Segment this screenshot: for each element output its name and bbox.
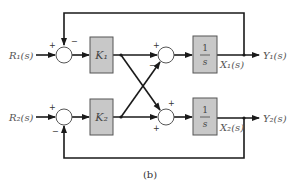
summing-junction-cross-1: [158, 47, 174, 63]
gain-label-k1: K₁: [94, 49, 108, 62]
sign-sum4-left: +: [153, 124, 160, 133]
input-label-r1: R₁(s): [8, 50, 34, 61]
cross-wire-k2-to-sum3: [121, 62, 160, 117]
output-label-y1: Y₁(s): [263, 50, 287, 61]
sign-sum3-left: +: [153, 41, 160, 50]
block-diagram: + − + − + − + + K₁ K₂ 1 s 1 s R₁(s) R₂(s…: [0, 0, 295, 186]
state-label-x2: X₂(s): [219, 122, 244, 133]
gain-label-k2: K₂: [94, 111, 108, 124]
sign-sum1-left: +: [49, 41, 56, 50]
integrator-2-numerator: 1: [202, 105, 208, 115]
summing-junction-input-1: [56, 47, 72, 63]
figure-caption: (b): [143, 169, 157, 180]
summing-junction-cross-2: [158, 109, 174, 125]
sign-sum3-bottom: −: [149, 61, 156, 70]
sign-sum1-top: −: [71, 37, 78, 46]
sign-sum2-bottom: −: [52, 127, 59, 136]
integrator-2-denominator: s: [203, 119, 208, 129]
pickoff-dot-y2: [242, 116, 245, 119]
output-label-y2: Y₂(s): [263, 113, 287, 124]
state-label-x1: X₁(s): [219, 59, 244, 70]
integrator-1-denominator: s: [203, 57, 208, 67]
integrator-block-2: [193, 98, 217, 135]
summing-junction-input-2: [56, 109, 72, 125]
integrator-block-1: [193, 36, 217, 73]
input-label-r2: R₂(s): [8, 112, 34, 123]
sign-sum4-top: +: [168, 99, 175, 108]
sign-sum2-left: +: [49, 103, 56, 112]
integrator-1-numerator: 1: [202, 43, 208, 53]
pickoff-dot-y1: [242, 53, 245, 56]
